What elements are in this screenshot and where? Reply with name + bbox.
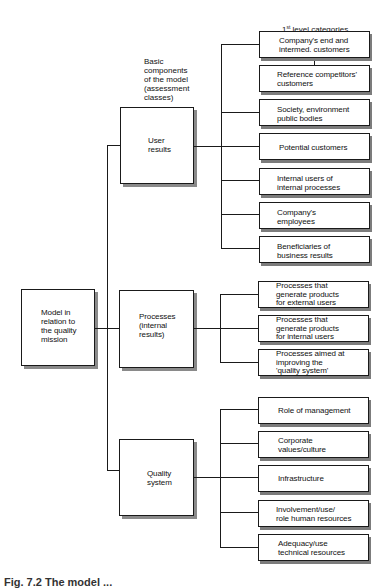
category-label: Reference competitors' customers bbox=[277, 70, 369, 88]
category-label: Adequacy/use technical resources bbox=[278, 539, 368, 557]
connector-branch bbox=[220, 328, 259, 329]
connector-spine-to-user-results bbox=[107, 145, 120, 146]
component-processes-box: Processes (internal results) bbox=[119, 290, 194, 368]
category-label: Society, environment public bodies bbox=[277, 105, 369, 123]
category-box: Infrastructure bbox=[258, 465, 369, 492]
category-box: Internal users of internal processes bbox=[259, 168, 370, 195]
connector-branch bbox=[220, 362, 259, 363]
category-label: Processes that generate products for int… bbox=[276, 316, 368, 342]
connector-branch bbox=[220, 409, 258, 410]
category-label: Company's employees bbox=[277, 208, 369, 226]
category-label: Potential customers bbox=[279, 143, 369, 152]
component-label: Processes (internal results) bbox=[139, 312, 193, 339]
connector-user-results-out bbox=[194, 146, 221, 147]
category-box: Role of management bbox=[258, 397, 369, 424]
category-box: Potential customers bbox=[259, 133, 370, 160]
connector-branch bbox=[220, 547, 258, 548]
category-box: Beneficiaries of business results bbox=[259, 236, 370, 263]
category-box: Processes aimed at improving the 'qualit… bbox=[258, 349, 369, 376]
connector-branch bbox=[221, 146, 259, 147]
category-label: Beneficiaries of business results bbox=[277, 242, 369, 260]
connector-branch bbox=[221, 214, 259, 215]
category-box: Society, environment public bodies bbox=[259, 99, 370, 126]
category-box: Company's end and intermed. customers bbox=[259, 31, 370, 58]
basic-components-header: Basic components of the model (assessmen… bbox=[144, 57, 189, 102]
category-box: Involvement/use/ role human resources bbox=[258, 500, 369, 527]
connector-branch bbox=[221, 248, 259, 249]
root-model-label: Model in relation to the quality mission bbox=[41, 308, 94, 344]
category-box: Adequacy/use technical resources bbox=[258, 534, 369, 561]
connector-branch bbox=[220, 512, 258, 513]
connector-quality-system-spine bbox=[220, 409, 221, 548]
component-user-results-box: User results bbox=[120, 107, 194, 184]
component-label: Quality system bbox=[147, 469, 193, 487]
component-label: User results bbox=[148, 136, 193, 154]
connector-quality-system-out bbox=[194, 477, 220, 478]
category-box: Corporate values/culture bbox=[258, 431, 369, 458]
category-label: Processes aimed at improving the 'qualit… bbox=[276, 350, 368, 376]
connector-between-leaf-1-2 bbox=[314, 57, 315, 65]
category-label: Company's end and intermed. customers bbox=[279, 36, 369, 54]
root-model-box: Model in relation to the quality mission bbox=[21, 289, 95, 366]
connector-branch bbox=[221, 44, 259, 45]
connector-branch bbox=[221, 112, 259, 113]
category-label: Involvement/use/ role human resources bbox=[276, 505, 368, 523]
category-label: Corporate values/culture bbox=[278, 436, 368, 454]
category-box: Company's employees bbox=[259, 202, 370, 229]
connector-processes-out bbox=[194, 328, 220, 329]
category-label: Infrastructure bbox=[278, 474, 368, 483]
figure-caption: Fig. 7.2 The model ... bbox=[4, 576, 112, 588]
connector-left-spine bbox=[107, 145, 108, 471]
category-box: Processes that generate products for int… bbox=[258, 315, 369, 342]
category-box: Reference competitors' customers bbox=[259, 65, 370, 92]
connector-branch bbox=[220, 477, 258, 478]
category-label: Processes that generate products for ext… bbox=[276, 282, 368, 308]
category-label: Role of management bbox=[278, 406, 368, 415]
component-quality-system-box: Quality system bbox=[119, 439, 194, 516]
category-label: Internal users of internal processes bbox=[277, 174, 369, 192]
connector-branch bbox=[221, 180, 259, 181]
connector-branch bbox=[220, 443, 258, 444]
category-box: Processes that generate products for ext… bbox=[258, 281, 369, 308]
connector-branch bbox=[220, 294, 259, 295]
